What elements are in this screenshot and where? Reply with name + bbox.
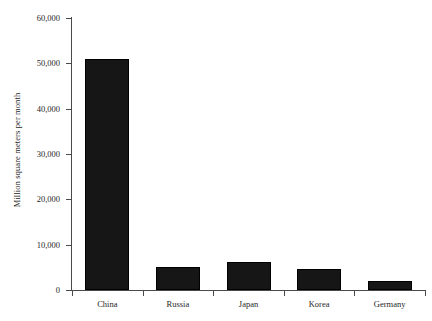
y-axis-tick-label: 0 <box>56 285 64 295</box>
x-axis-tick <box>213 291 214 296</box>
y-axis-tick <box>66 290 71 291</box>
bar <box>368 281 412 290</box>
y-axis-tick <box>66 18 71 19</box>
x-axis-tick <box>143 291 144 296</box>
x-axis-line <box>71 290 426 291</box>
y-axis-tick-label: 60,000 <box>37 13 64 23</box>
y-axis-tick <box>66 199 71 200</box>
x-axis-tick-label: Korea <box>309 299 330 309</box>
y-axis-tick-label: 10,000 <box>37 240 64 250</box>
y-axis-tick <box>66 154 71 155</box>
x-axis-tick <box>425 291 426 296</box>
y-axis-tick-label: 50,000 <box>37 58 64 68</box>
x-axis-tick <box>72 291 73 296</box>
x-axis-tick <box>354 291 355 296</box>
bar-chart: Million square meters per month 010,0002… <box>0 0 432 321</box>
x-axis-tick-label: Russia <box>167 299 190 309</box>
y-axis-tick <box>66 63 71 64</box>
y-axis-title-label: Million square meters per month <box>12 93 22 208</box>
bar <box>156 267 200 290</box>
bar <box>85 59 129 290</box>
bar <box>297 269 341 290</box>
y-axis-tick-label: 40,000 <box>37 104 64 114</box>
x-axis-tick-label: Japan <box>239 299 258 309</box>
bar <box>227 262 271 290</box>
y-axis-line <box>71 17 72 291</box>
y-axis-tick <box>66 109 71 110</box>
x-axis-tick-label: China <box>97 299 117 309</box>
x-axis-tick <box>284 291 285 296</box>
x-axis-tick-label: Germany <box>374 299 406 309</box>
y-axis-tick-label: 30,000 <box>37 149 64 159</box>
y-axis-tick <box>66 245 71 246</box>
y-axis-title: Million square meters per month <box>8 0 26 300</box>
y-axis-tick-label: 20,000 <box>37 194 64 204</box>
